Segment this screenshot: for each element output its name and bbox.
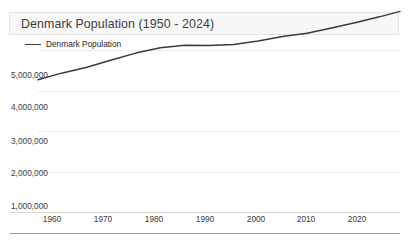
x-tick-label-1970: 1970	[83, 214, 123, 224]
x-axis-line	[10, 212, 400, 213]
y-tick-label-5m: 5,000,000	[11, 70, 48, 80]
x-tick-label-1990: 1990	[185, 214, 225, 224]
x-tick-label-2020: 2020	[337, 214, 377, 224]
y-tick-label-4m: 4,000,000	[11, 102, 48, 112]
x-tick-label-1980: 1980	[134, 214, 174, 224]
y-tick-label-3m: 3,000,000	[11, 136, 48, 146]
chart-card: Denmark Population (1950 - 2024) Denmark…	[0, 0, 408, 247]
x-tick-label-2010: 2010	[286, 214, 326, 224]
y-tick-label-1m: 1,000,000	[11, 201, 48, 211]
y-tick-label-2m: 2,000,000	[11, 168, 48, 178]
plot-area	[38, 30, 400, 212]
x-tick-label-1960: 1960	[32, 214, 72, 224]
page-title: Denmark Population (1950 - 2024)	[10, 17, 214, 31]
card-bottom-rule	[10, 233, 400, 234]
x-tick-label-2000: 2000	[236, 214, 276, 224]
series-line-denmark-population	[38, 30, 400, 212]
